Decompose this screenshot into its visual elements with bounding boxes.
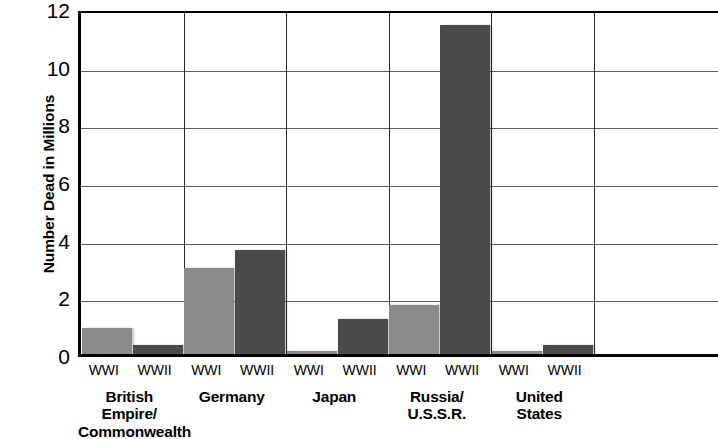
series-tick-label: WWI	[79, 362, 129, 378]
series-tick-label: WWII	[130, 362, 180, 378]
group-divider	[286, 13, 287, 354]
gridline	[81, 186, 718, 187]
y-tick-label: 4	[36, 231, 70, 252]
bar-wwii	[235, 250, 285, 354]
series-tick-label: WWII	[335, 362, 385, 378]
series-tick-label: WWII	[540, 362, 590, 378]
gridline	[81, 71, 718, 72]
bar-wwi	[184, 268, 234, 355]
bar-wwii	[338, 319, 388, 354]
group-label: British Empire/ Commonwealth	[78, 388, 181, 439]
group-divider	[594, 13, 595, 354]
series-tick-label: WWII	[437, 362, 487, 378]
cropped-chart-title	[0, 0, 709, 6]
y-axis-tick-labels: 121086420	[28, 0, 70, 439]
series-tick-label: WWI	[489, 362, 539, 378]
bar-wwii	[440, 25, 490, 354]
bar-wwi	[389, 305, 439, 354]
gridline	[81, 301, 718, 302]
series-tick-label: WWI	[284, 362, 334, 378]
group-label: Japan	[283, 388, 386, 405]
group-label: Germany	[181, 388, 284, 405]
gridline	[81, 128, 718, 129]
group-label: United States	[488, 388, 591, 423]
y-tick-label: 2	[36, 288, 70, 309]
group-label: Russia/ U.S.S.R.	[386, 388, 489, 423]
gridline	[81, 244, 718, 245]
bar-wwi	[287, 351, 337, 354]
series-tick-label: WWI	[181, 362, 231, 378]
y-tick-label: 12	[36, 0, 70, 21]
y-tick-label: 6	[36, 173, 70, 194]
bar-wwii	[543, 345, 593, 354]
series-tick-label: WWI	[386, 362, 436, 378]
series-tick-label: WWII	[232, 362, 282, 378]
group-divider	[389, 13, 390, 354]
y-tick-label: 8	[36, 115, 70, 136]
bar-wwi	[82, 328, 132, 354]
plot-area	[78, 11, 718, 357]
bar-wwi	[492, 351, 542, 354]
y-tick-label: 10	[36, 58, 70, 79]
group-divider	[491, 13, 492, 354]
y-tick-label: 0	[36, 346, 70, 367]
bar-wwii	[133, 345, 183, 354]
